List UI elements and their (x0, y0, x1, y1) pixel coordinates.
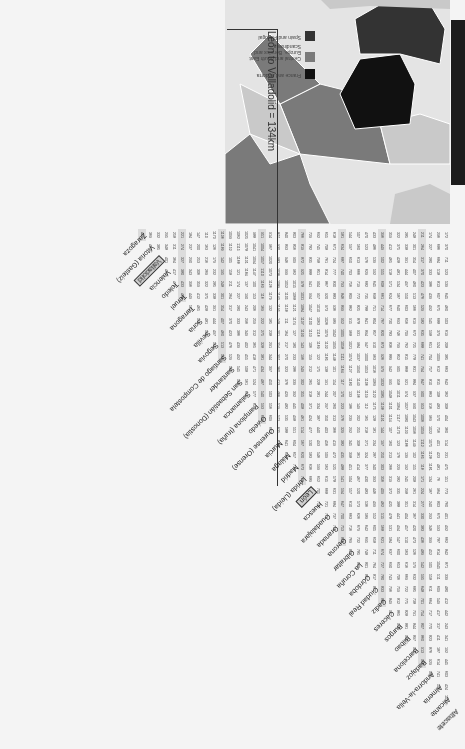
distance-cell: 313 (332, 412, 336, 424)
distance-cell: 425 (388, 498, 392, 510)
distance-cell: 884 (412, 376, 416, 388)
distance-cell: 969 (428, 412, 432, 424)
distance-cell: 345 (348, 437, 352, 449)
distance-cell: 493 (316, 437, 320, 449)
distance-cell: 1025 (244, 229, 248, 241)
distance-cell: 675 (436, 302, 440, 314)
distance-cell: 785 (356, 546, 360, 558)
distance-cell: 682 (364, 278, 368, 290)
distance-cell: 367 (412, 510, 416, 522)
distance-cell: 650 (348, 254, 352, 266)
distance-cell: 123 (396, 437, 400, 449)
distance-cell: 529 (420, 302, 424, 314)
distance-cell: 609 (268, 412, 272, 424)
distance-cell: 772 (356, 290, 360, 302)
distance-cell: 840 (284, 229, 288, 241)
distance-cell: 614 (436, 656, 440, 668)
distance-cell: 281 (316, 388, 320, 400)
distance-cell: 1006 (420, 412, 424, 424)
distance-cell: 240 (428, 498, 432, 510)
distance-cell: 1105 (284, 290, 288, 302)
distance-cell: 147 (196, 229, 200, 241)
distance-cell: 362 (444, 388, 448, 400)
distance-cell: 762 (404, 339, 408, 351)
distance-cell: 942 (388, 363, 392, 375)
distance-cell: 264 (228, 290, 232, 302)
distance-cell: 1020 (268, 254, 272, 266)
distance-cell: 610 (348, 498, 352, 510)
distance-cell: 308 (356, 437, 360, 449)
distance-cell: 658 (372, 534, 376, 546)
distance-cell: 451 (348, 461, 352, 473)
distance-cell: 418 (252, 351, 256, 363)
distance-cell: 383 (420, 522, 424, 534)
distance-cell: 76 (436, 473, 440, 485)
distance-cell: 482 (284, 400, 288, 412)
distance-cell: 751 (372, 302, 376, 314)
distance-cell: 489 (420, 546, 424, 558)
distance-cell: 989 (332, 315, 336, 327)
distance-cell: 285 (212, 278, 216, 290)
distance-cell: 815 (436, 376, 440, 388)
distance-cell: 1053 (364, 363, 368, 375)
distance-cell: 904 (316, 278, 320, 290)
distance-cell: 541 (340, 473, 344, 485)
distance-cell: 250 (380, 449, 384, 461)
distance-cell: 1142 (276, 290, 280, 302)
distance-cell: 502 (380, 254, 384, 266)
distance-cell: 365 (252, 339, 256, 351)
distance-cell: 213 (388, 449, 392, 461)
distance-cell: 396 (188, 278, 192, 290)
distance-cell: 513 (220, 339, 224, 351)
distance-cell: 460 (412, 278, 416, 290)
distance-cell: 248 (220, 278, 224, 290)
distance-cell: 615 (324, 473, 328, 485)
distance-cell: 1089 (276, 278, 280, 290)
distance-cell: 139 (404, 449, 408, 461)
distance-cell: 539 (444, 278, 448, 290)
distance-cell: 794 (420, 363, 424, 375)
distance-cell: 605 (372, 522, 376, 534)
distance-cell: 556 (268, 400, 272, 412)
distance-cell: 258 (172, 229, 176, 241)
distance-cell: 878 (356, 315, 360, 327)
distance-cell: 613 (356, 254, 360, 266)
distance-cell: 444 (404, 266, 408, 278)
distance-cell: 761 (324, 254, 328, 266)
distance-cell: 351 (404, 498, 408, 510)
distance-cell: 301 (220, 290, 224, 302)
distance-cell: 287 (372, 449, 376, 461)
distance-cell: 597 (348, 241, 352, 253)
distance-cell: 525 (332, 461, 336, 473)
distance-cell: 420 (412, 522, 416, 534)
distance-cell: 801 (364, 559, 368, 571)
distance-cell: 568 (380, 522, 384, 534)
distance-cell: 894 (364, 327, 368, 339)
distance-cell: 171 (420, 473, 424, 485)
distance-cell: 709 (404, 327, 408, 339)
distance-cell: 889 (388, 351, 392, 363)
distance-cell: 1158 (284, 302, 288, 314)
distance-cell: 719 (356, 278, 360, 290)
distance-cell: 769 (348, 534, 352, 546)
distance-cell: 863 (428, 388, 432, 400)
distance-cell: 1175 (372, 400, 376, 412)
distance-cell: 1005 (340, 327, 344, 339)
distance-cell: 978 (300, 278, 304, 290)
distance-cell: 333 (428, 266, 432, 278)
distance-cell: 163 (204, 241, 208, 253)
distance-cell: 775 (404, 595, 408, 607)
distance-cell: 211 (420, 229, 424, 241)
distance-cell: 603 (404, 302, 408, 314)
distance-cell: 112 (364, 400, 368, 412)
distance-cell: 984 (356, 339, 360, 351)
distance-cell: 849 (388, 595, 392, 607)
distance-cell: 964 (436, 485, 440, 497)
distance-cell: 202 (356, 412, 360, 424)
distance-cell: 706 (396, 571, 400, 583)
distance-cell: 1186 (404, 437, 408, 449)
distance-cell: 417 (172, 266, 176, 278)
distance-cell: 1068 (292, 290, 296, 302)
distance-cell: 803 (292, 229, 296, 241)
distance-cell: 813 (436, 278, 440, 290)
